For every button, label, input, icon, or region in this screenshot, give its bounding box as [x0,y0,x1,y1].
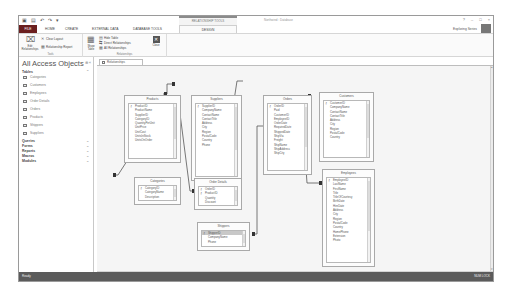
nav-search-icon[interactable]: ⊛ [85,61,88,65]
table-employees[interactable]: Employees ⚷EmployeeIDLastNameFirstNameTi… [322,169,375,267]
direct-relationships-button[interactable]: ⇆Direct Relationships [99,41,131,45]
table-title[interactable]: Employees [323,170,374,177]
relationships-icon [102,61,105,64]
table-title[interactable]: Orders [264,96,311,103]
save-icon[interactable]: ▤ [31,18,36,23]
scroll-thumb[interactable] [235,190,237,201]
clear-layout-button[interactable]: ✕Clear Layout [41,37,63,41]
scroll-thumb[interactable] [174,107,176,139]
scroll-thumb[interactable] [243,234,245,243]
table-title[interactable]: Categories [135,178,180,185]
nav-group-queries[interactable]: Queries⌄ [22,139,35,143]
field-list-scrollbar[interactable] [304,104,307,170]
scroll-up-icon[interactable]: ▴ [491,66,493,69]
table-shippers[interactable]: Shippers ⚷ShipperIDCompanyNamePhone [197,222,250,251]
field-photo[interactable]: Photo [327,238,370,242]
table-title[interactable]: Suppliers [192,96,241,103]
table-title[interactable]: Order Details [195,179,241,186]
table-orders[interactable]: Orders ⚷OrderIDPaidCustomerIDEmployeeIDO… [263,95,312,175]
redo-icon[interactable]: ↷ [48,18,52,23]
nav-item-order-details[interactable]: Order Details [23,99,49,104]
field-list-scrollbar[interactable] [234,104,237,176]
field-name: Discount [205,200,216,204]
field-list-scrollbar[interactable] [366,101,369,157]
field-list-scrollbar[interactable] [234,187,237,205]
relationships-canvas[interactable]: Products ⚷ProductIDProductNameSupplierID… [97,65,493,274]
table-title[interactable]: Shippers [198,223,249,230]
expand-icon: ⌄ [86,139,89,143]
tab-database-tools[interactable]: DATABASE TOOLS [131,25,164,33]
nav-item-orders[interactable]: Orders [23,107,40,112]
show-table-button[interactable]: ▦ Show Table [84,36,98,51]
field-list-scrollbar[interactable] [173,186,176,200]
tab-home[interactable]: HOME [43,25,57,33]
field-list-scrollbar[interactable] [367,178,370,262]
table-icon [23,100,27,103]
table-customers[interactable]: Customers ⚷CustomerIDCompanyNameContactN… [319,92,374,162]
app-icon: ▣ [22,18,27,23]
scroll-thumb[interactable] [368,181,370,231]
close-relationships-button[interactable]: ✕ Close [149,36,163,47]
collapse-icon: ⌃ [86,70,89,74]
minimize-button[interactable]: – [471,17,473,22]
scroll-thumb[interactable] [367,104,369,138]
all-relationships-button[interactable]: ▦All Relationships [99,46,126,50]
num-lock-indicator: NUM LOCK [474,272,490,281]
table-suppliers[interactable]: Suppliers ⚷SupplierIDCompanyNameContactN… [191,95,242,181]
expand-icon: ⌄ [86,149,89,153]
nav-item-categories[interactable]: Categories [23,75,46,80]
customize-icon[interactable]: ▾ [56,18,59,23]
account-name[interactable]: Exploring Series [453,25,477,33]
scroll-thumb[interactable] [235,107,237,150]
scroll-thumb[interactable] [305,107,307,147]
ribbon-group-tools-label: Tools [19,53,82,56]
shutter-bar-icon[interactable]: « [89,61,91,65]
nav-item-employees[interactable]: Employees [23,91,46,96]
help-button[interactable]: ? [463,17,465,22]
tab-file[interactable]: FILE [19,25,37,33]
vertical-scrollbar[interactable]: ▴ ▾ [490,66,493,274]
edit-relationships-button[interactable]: ⌧ Edit Relationships [21,36,39,51]
tab-external-data[interactable]: EXTERNAL DATA [90,25,121,33]
nav-pane-title[interactable]: All Access Objects [22,59,84,68]
ribbon-group-relationships: ▦ Show Table ▤Hide Table ⇆Direct Relatio… [83,34,167,57]
table-order-details[interactable]: Order Details ⚷OrderID⚷ProductIDQuantity… [194,178,242,210]
field-country[interactable]: Country [324,135,369,139]
field-shipcity[interactable]: ShipCity [268,151,307,155]
table-categories[interactable]: Categories ⚷CategoryIDCategoryNameDescri… [134,177,181,205]
field-description[interactable]: Description [139,195,176,199]
nav-item-customers[interactable]: Customers [23,83,46,88]
undo-icon[interactable]: ↶ [40,18,44,23]
scroll-thumb[interactable] [174,189,176,197]
nav-group-macros[interactable]: Macros⌄ [22,154,34,158]
edit-relationships-icon: ⌧ [26,36,35,44]
tab-create[interactable]: CREATE [63,25,80,33]
nav-item-shippers[interactable]: Shippers [23,123,43,128]
nav-group-reports[interactable]: Reports⌄ [22,149,35,153]
field-list-scrollbar[interactable] [242,231,245,246]
table-products[interactable]: Products ⚷ProductIDProductNameSupplierID… [124,95,181,163]
relationship-report-button[interactable]: ▦Relationship Report [41,45,72,49]
nav-item-suppliers[interactable]: Suppliers [23,131,44,136]
tab-design[interactable]: DESIGN [179,25,237,33]
all-relationships-icon: ▦ [99,46,103,50]
table-title[interactable]: Products [125,96,180,103]
field-unitsonorder[interactable]: UnitsOnOrder [129,138,176,142]
table-title[interactable]: Customers [320,93,373,100]
field-list: ⚷ShipperIDCompanyNamePhone [201,230,246,247]
close-window-button[interactable]: × [488,17,490,22]
nav-group-tables[interactable]: Tables ⌃ [22,70,33,74]
nav-item-products[interactable]: Products [23,115,43,120]
nav-item-label: Suppliers [30,131,44,135]
nav-group-label: Reports [22,149,35,153]
nav-group-forms[interactable]: Forms⌄ [22,144,33,148]
expand-icon: ⌄ [86,154,89,158]
nav-group-modules[interactable]: Modules⌄ [22,159,36,163]
field-list-scrollbar[interactable] [173,104,176,158]
maximize-button[interactable]: □ [479,17,481,22]
field-phone[interactable]: Phone [196,143,237,147]
field-list: ⚷EmployeeIDLastNameFirstNameTitleTitleOf… [326,177,371,263]
field-phone[interactable]: Phone [202,240,245,244]
clear-layout-icon: ✕ [41,37,45,41]
field-discount[interactable]: Discount [199,200,237,204]
